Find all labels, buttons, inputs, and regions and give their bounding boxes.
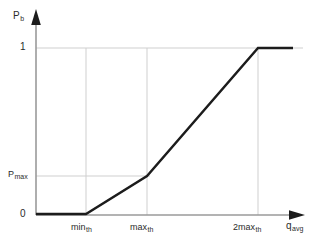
x-axis-arrowhead [289, 210, 305, 220]
x-axis-label: qavg [286, 221, 303, 232]
x-tick-maxth-base: max [130, 222, 147, 232]
y-axis-label: Pb [13, 11, 24, 22]
x-tick-maxth-subscript: th [147, 226, 153, 233]
x-tick-label-minth: minth [71, 223, 92, 233]
y-axis-label-base: P [13, 10, 20, 21]
x-tick-minth-subscript: th [86, 226, 92, 233]
y-tick-label-one: 1 [20, 42, 26, 53]
x-tick-label-maxth: maxth [130, 223, 153, 233]
y-tick-pmax-subscript: max [14, 173, 28, 180]
drop-probability-curve [36, 48, 293, 214]
x-axis-label-subscript: avg [292, 225, 304, 232]
x-axis-label-base: q [286, 220, 292, 231]
x-tick-2maxth-subscript: th [255, 226, 261, 233]
x-tick-2maxth-base: 2max [233, 222, 255, 232]
y-tick-zero-subscript [26, 213, 27, 220]
y-tick-label-zero: 0 [20, 209, 26, 220]
figure-container: Pb qavg 1 Pmax 0 minth maxth 2maxth [0, 0, 322, 245]
y-tick-one-subscript [26, 46, 27, 53]
y-axis-label-subscript: b [20, 15, 24, 22]
y-tick-one-base: 1 [20, 41, 26, 52]
x-tick-minth-base: min [71, 222, 86, 232]
y-axis-arrowhead [31, 9, 41, 25]
y-tick-zero-base: 0 [20, 208, 26, 219]
plot-canvas [0, 0, 322, 245]
x-tick-label-2maxth: 2maxth [233, 223, 261, 233]
y-tick-label-pmax: Pmax [8, 170, 28, 180]
